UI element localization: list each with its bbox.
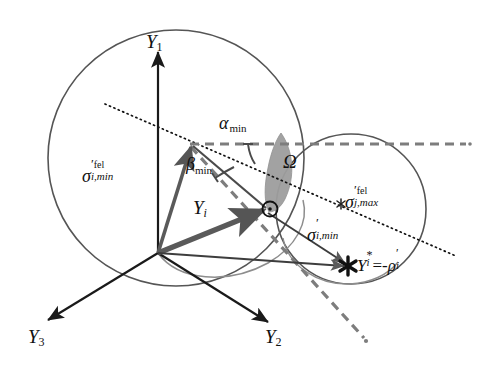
- axis-label-y3: Y3: [28, 327, 45, 348]
- sigma-i-min-prime-prime: ′: [316, 215, 319, 230]
- rho-prime: ′: [396, 247, 399, 259]
- axis-label-y3-letter: Y: [28, 326, 39, 347]
- label-beta-min: βmin: [186, 155, 212, 173]
- axis-label-y2-sub: 2: [276, 335, 282, 349]
- vector-y-i: [158, 210, 264, 253]
- dashed-diagonal-end-dot: [364, 339, 368, 343]
- sigma-j-max-fel-sup: fel: [357, 185, 368, 196]
- diagram-canvas: [0, 0, 481, 365]
- line-origin-to-y-star: [158, 253, 344, 266]
- alpha-min-symbol: α: [219, 113, 228, 133]
- label-y-i-vector: Yi: [193, 198, 207, 219]
- axis-label-y3-sub: 3: [39, 335, 45, 349]
- label-sigma-j-max-fel: σ ′fel j,max: [345, 186, 378, 211]
- alpha-min-sub: min: [229, 122, 246, 134]
- y-i-letter: Y: [193, 197, 204, 218]
- sigma-j-max-fel-sub: j,max: [354, 196, 378, 208]
- label-y-i-star-equation: Y * i =-ρ ′ i: [357, 250, 399, 274]
- stress-sphere-diagram: Y1 Y2 Y3 σ ′fel i,min σ ′fel j,max σ ′ i…: [0, 0, 481, 365]
- sigma-j-max-fel-symbol: σ: [345, 192, 354, 212]
- dashed-horizontal-end-dot: [468, 142, 472, 146]
- beta-min-symbol: β: [186, 154, 195, 174]
- y-i-sub: i: [204, 206, 207, 220]
- intersection-center-dot: [268, 207, 272, 211]
- label-sigma-i-min-fel: σ ′fel i,min: [82, 160, 113, 185]
- axis-label-y1-letter: Y: [146, 31, 157, 52]
- sigma-i-min-fel-sub: i,min: [91, 170, 113, 182]
- axis-label-y2-letter: Y: [265, 326, 276, 347]
- label-sigma-i-min-prime: σ ′ i,min: [307, 219, 338, 244]
- y-star-subscript: i: [366, 257, 372, 268]
- axis-y2: [158, 253, 268, 322]
- sigma-i-min-prime-sub: i,min: [316, 229, 338, 241]
- omega-symbol: Ω: [283, 151, 297, 172]
- label-omega: Ω: [283, 152, 297, 171]
- beta-min-angle-arc: [215, 167, 234, 178]
- axis-label-y2: Y2: [265, 327, 282, 348]
- label-alpha-min: αmin: [219, 114, 246, 132]
- sigma-i-min-fel-symbol: σ: [82, 166, 91, 186]
- y-star-equals: =: [372, 256, 382, 275]
- axis-label-y1: Y1: [146, 32, 163, 53]
- sigma-i-min-fel-sup: fel: [94, 159, 105, 170]
- rho-symbol: ρ: [388, 256, 396, 275]
- sigma-i-min-prime-symbol: σ: [307, 225, 316, 245]
- beta-min-sub: min: [195, 164, 212, 176]
- axis-label-y1-sub: 1: [157, 40, 163, 54]
- rho-subscript: i: [396, 260, 399, 271]
- alpha-min-angle-arc: [248, 144, 255, 164]
- y-star-letter: Y: [357, 256, 366, 275]
